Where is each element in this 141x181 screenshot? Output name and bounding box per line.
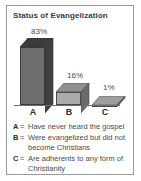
axis-label-a: A bbox=[25, 107, 41, 117]
chart-legend: A = Have never heard the gospel B = Were… bbox=[13, 122, 131, 175]
legend-key-b: B bbox=[13, 133, 20, 143]
chart-figure: Status of Evangelization 83% 16% 1% bbox=[0, 0, 141, 181]
legend-equals-b: = bbox=[20, 133, 28, 143]
plot-area: 83% 16% 1% bbox=[6, 24, 134, 112]
bar-a-front-face bbox=[20, 47, 45, 105]
legend-key-c: C bbox=[13, 154, 20, 164]
legend-item-c: C = Are adherents to any form of Christi… bbox=[13, 154, 131, 174]
legend-text-c: Are adherents to any form of Christianit… bbox=[28, 154, 131, 174]
chart-title: Status of Evangelization bbox=[13, 11, 129, 20]
value-label-c: 1% bbox=[103, 83, 115, 92]
legend-item-b: B = Were evangelized but did not become … bbox=[13, 133, 131, 153]
legend-equals-a: = bbox=[20, 122, 28, 132]
legend-text-b: Were evangelized but did not become Chri… bbox=[28, 133, 131, 153]
value-label-b: 16% bbox=[67, 71, 83, 80]
value-label-a: 83% bbox=[31, 27, 47, 36]
chart-baseline bbox=[14, 105, 120, 106]
category-axis: A B C bbox=[6, 107, 134, 120]
axis-label-b: B bbox=[61, 107, 77, 117]
legend-text-a: Have never heard the gospel bbox=[28, 122, 131, 132]
legend-equals-c: = bbox=[20, 154, 28, 164]
bar-b-front-face bbox=[56, 92, 81, 105]
axis-label-c: C bbox=[97, 107, 113, 117]
legend-item-a: A = Have never heard the gospel bbox=[13, 122, 131, 132]
bar-a-side-face bbox=[45, 38, 55, 114]
legend-key-a: A bbox=[13, 122, 20, 132]
